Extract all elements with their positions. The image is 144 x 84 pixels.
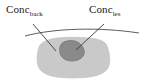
label-conc-les-base: Conc <box>89 3 113 15</box>
label-conc-back: Concback <box>6 4 43 18</box>
label-conc-back-base: Conc <box>6 3 30 15</box>
label-conc-les: Concles <box>89 4 120 18</box>
label-conc-les-subscript: les <box>113 10 121 18</box>
figure-container: Concback Concles <box>0 0 144 84</box>
label-conc-back-subscript: back <box>30 10 43 18</box>
